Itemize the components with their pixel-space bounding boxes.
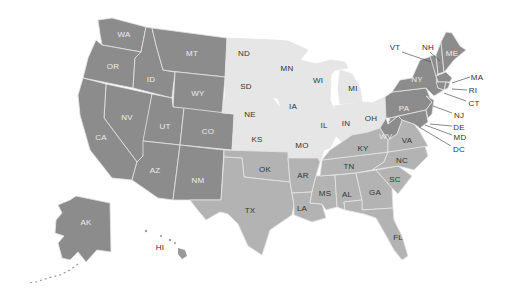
state-label-ar: AR <box>297 171 309 180</box>
state-label-hi: HI <box>156 243 164 252</box>
state-label-fl: FL <box>393 233 403 242</box>
state-label-la: LA <box>297 204 307 213</box>
state-label-az: AZ <box>150 166 161 175</box>
state-label-ky: KY <box>357 144 368 153</box>
state-label-nh: NH <box>422 43 434 52</box>
state-label-nj: NJ <box>454 111 464 120</box>
state-label-id: ID <box>147 75 155 84</box>
state-label-ks: KS <box>251 135 262 144</box>
state-label-tx: TX <box>245 206 256 215</box>
state-label-mi: MI <box>348 84 357 93</box>
state-label-in: IN <box>342 119 350 128</box>
state-label-md: MD <box>454 133 467 142</box>
state-label-nm: NM <box>192 176 205 185</box>
state-label-me: ME <box>446 49 458 58</box>
state-label-al: AL <box>342 190 352 199</box>
state-label-ca: CA <box>95 133 107 142</box>
state-label-ne: NE <box>244 110 256 119</box>
state-label-wi: WI <box>313 76 323 85</box>
callout-line-ri <box>452 89 467 90</box>
state-label-or: OR <box>107 62 119 71</box>
state-fl[interactable] <box>344 200 408 260</box>
state-label-vt: VT <box>390 43 401 52</box>
state-label-ct: CT <box>468 99 479 108</box>
state-label-ia: IA <box>289 102 297 111</box>
state-label-ny: NY <box>411 75 423 84</box>
state-label-wy: WY <box>191 89 204 98</box>
state-label-ut: UT <box>159 122 170 131</box>
state-label-pa: PA <box>399 104 409 113</box>
ak-aleutian-islands <box>28 264 78 283</box>
state-label-ri: RI <box>469 86 477 95</box>
state-label-ok: OK <box>259 165 271 174</box>
state-label-mn: MN <box>281 64 294 73</box>
state-label-nd: ND <box>238 49 250 58</box>
state-label-oh: OH <box>365 114 377 123</box>
state-label-va: VA <box>402 136 412 145</box>
state-label-ga: GA <box>369 188 381 197</box>
state-label-mo: MO <box>295 141 308 150</box>
state-label-ms: MS <box>319 189 331 198</box>
state-label-co: CO <box>202 127 214 136</box>
state-label-mt: MT <box>186 49 198 58</box>
state-label-tn: TN <box>343 162 354 171</box>
callout-line-ct <box>444 93 466 101</box>
state-nm[interactable] <box>173 145 224 200</box>
region-west <box>28 18 234 283</box>
state-label-sc: SC <box>389 175 401 184</box>
state-ak[interactable] <box>55 196 111 262</box>
callout-line-md <box>425 125 452 135</box>
state-label-wa: WA <box>118 30 131 39</box>
callout-line-vt <box>402 52 431 62</box>
state-label-nv: NV <box>121 113 133 122</box>
state-label-wv: WV <box>379 132 392 141</box>
state-hi[interactable] <box>145 230 187 259</box>
state-nd[interactable] <box>226 38 277 68</box>
callout-line-de <box>430 124 452 126</box>
state-label-sd: SD <box>240 82 252 91</box>
state-label-dc: DC <box>453 145 465 154</box>
state-label-ak: AK <box>80 218 91 227</box>
state-label-ma: MA <box>471 73 483 82</box>
callout-line-ma <box>452 77 470 83</box>
state-label-nc: NC <box>396 156 408 165</box>
state-label-de: DE <box>453 123 465 132</box>
state-label-il: IL <box>320 121 327 130</box>
callout-line-nj <box>433 106 452 113</box>
